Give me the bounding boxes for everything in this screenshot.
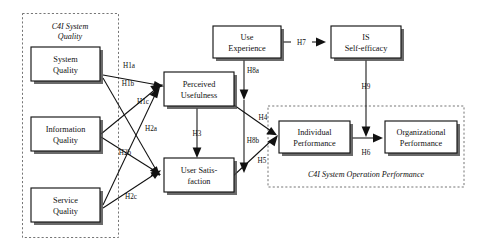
node-user-satisfaction-line1: User Satis-	[181, 166, 218, 175]
node-organizational-performance-line1: Organizational	[396, 128, 446, 137]
edge-h1c-label: H1c	[137, 98, 149, 106]
edge-h4-label: H4	[259, 114, 268, 122]
edge-h9: H9	[362, 60, 371, 137]
node-perceived-usefulness[interactable]: Perceived Usefulness	[164, 72, 237, 109]
edge-h2c: H2c	[103, 170, 161, 208]
group-c4i-system-operation-performance-label: C4I System Operation Performance	[308, 170, 425, 179]
node-perceived-usefulness-line2: Usefulness	[181, 91, 217, 100]
node-use-experience[interactable]: Use Experience	[213, 26, 284, 61]
edge-h8a: H8a	[240, 60, 260, 100]
node-information-quality-line2: Quality	[53, 136, 79, 145]
node-service-quality-line2: Quality	[53, 207, 79, 216]
node-is-self-efficacy[interactable]: IS Self-efficacy	[331, 26, 404, 61]
node-is-self-efficacy-line2: Self-efficacy	[345, 44, 389, 53]
node-system-quality[interactable]: System Quality	[31, 47, 103, 84]
group-c4i-system-quality-label-line2: Quality	[58, 32, 83, 41]
group-c4i-system-quality-label-line1: C4I System	[52, 22, 89, 31]
research-model-diagram: C4I System Quality C4I System Operation …	[0, 0, 486, 248]
node-individual-performance[interactable]: Individual Performance	[279, 121, 353, 156]
edge-h1b-label: H1b	[122, 80, 135, 88]
node-use-experience-line2: Experience	[228, 44, 266, 53]
node-service-quality[interactable]: Service Quality	[31, 188, 103, 225]
edge-h7-label: H7	[297, 39, 306, 47]
node-user-satisfaction-line2: faction	[187, 177, 211, 186]
edge-h1c: H1c	[103, 87, 160, 205]
edge-h3: H3	[193, 108, 202, 158]
node-system-quality-line1: System	[53, 55, 78, 64]
edge-h2b-label: H2b	[119, 149, 132, 157]
edge-h5-label: H5	[258, 157, 267, 165]
node-is-self-efficacy-line1: IS	[362, 33, 370, 42]
edge-h6: H6	[352, 134, 383, 157]
edge-h2a-label: H2a	[145, 125, 158, 133]
node-organizational-performance[interactable]: Organizational Performance	[385, 121, 460, 156]
node-use-experience-line1: Use	[241, 33, 254, 42]
node-user-satisfaction[interactable]: User Satis- faction	[164, 158, 237, 195]
node-perceived-usefulness-line1: Perceived	[183, 80, 217, 89]
edge-h3-label: H3	[193, 130, 202, 138]
node-individual-performance-line1: Individual	[297, 128, 332, 137]
node-system-quality-line2: Quality	[53, 66, 79, 75]
edge-h7: H7	[283, 38, 326, 47]
edge-h2c-label: H2c	[125, 193, 137, 201]
node-information-quality[interactable]: Information Quality	[31, 117, 103, 154]
edge-h6-label: H6	[362, 149, 371, 157]
node-individual-performance-line2: Performance	[293, 139, 336, 148]
node-service-quality-line1: Service	[53, 196, 78, 205]
edge-h8b-label: H8b	[247, 137, 260, 145]
node-information-quality-line1: Information	[46, 125, 86, 134]
edge-h1a-label: H1a	[123, 62, 136, 70]
node-organizational-performance-line2: Performance	[400, 139, 443, 148]
edge-h9-label: H9	[362, 83, 371, 91]
edge-h4: H4	[231, 103, 277, 135]
edge-h8a-label: H8a	[247, 67, 260, 75]
